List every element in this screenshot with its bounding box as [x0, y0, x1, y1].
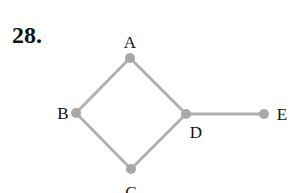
- node-label-A: A: [124, 33, 137, 52]
- node-label-D: D: [190, 123, 202, 142]
- node-E: [259, 109, 269, 119]
- graph-diagram: ABCDE: [0, 0, 307, 193]
- node-C: [126, 164, 136, 174]
- edge-A-B: [76, 58, 130, 113]
- edge-A-D: [130, 58, 186, 114]
- edge-B-C: [76, 113, 131, 169]
- node-label-C: C: [125, 183, 136, 193]
- node-D: [181, 109, 191, 119]
- node-B: [71, 108, 81, 118]
- node-label-B: B: [57, 104, 68, 123]
- node-label-E: E: [277, 105, 287, 124]
- node-A: [125, 53, 135, 63]
- edge-C-D: [131, 114, 186, 169]
